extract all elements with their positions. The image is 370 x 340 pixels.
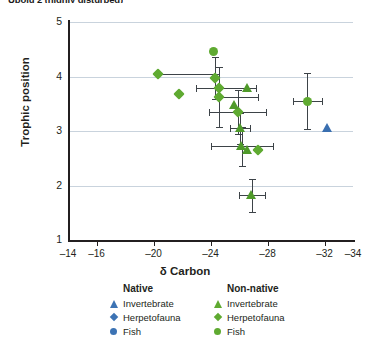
- legend-heading-native: Native: [123, 283, 220, 294]
- panel-title: Upolu 2 (highly disturbed): [8, 0, 123, 3]
- error-bar-cap: [293, 98, 294, 105]
- legend-item-label: Fish: [123, 326, 141, 337]
- x-tick--16: [97, 241, 98, 246]
- data-point-herpetofauna-nonnative: [152, 68, 163, 79]
- error-bar-cap: [273, 143, 274, 150]
- y-tick-label-3: 3: [46, 124, 62, 136]
- y-tick-label-2: 2: [46, 179, 62, 191]
- trophic-position-scatter-figure: Upolu 2 (highly disturbed) –14–16–20–24–…: [0, 0, 370, 340]
- legend-item-native-herpetofauna[interactable]: Herpetofauna: [110, 311, 220, 325]
- legend-item-native-fish[interactable]: Fish: [110, 325, 220, 339]
- legend-item-label: Invertebrate: [123, 298, 174, 309]
- circle-marker-icon: [214, 328, 221, 335]
- legend-item-label: Invertebrate: [227, 298, 278, 309]
- plot-area: [68, 22, 353, 240]
- triangle-marker-icon: [110, 300, 118, 308]
- error-bar-cap: [322, 98, 323, 105]
- data-point-invertebrate-nonnative: [235, 123, 245, 132]
- data-point-invertebrate-native: [322, 123, 332, 132]
- legend-item-nonnative-herpetofauna[interactable]: Herpetofauna: [214, 311, 324, 325]
- error-bar-cap: [258, 94, 259, 101]
- data-point-herpetofauna-nonnative: [173, 88, 184, 99]
- x-tick--28: [268, 241, 269, 246]
- y-tick-label-1: 1: [46, 233, 62, 245]
- error-bar-cap: [216, 127, 223, 128]
- error-bar-horizontal: [158, 74, 219, 75]
- gridline-y-3: [68, 131, 353, 132]
- error-bar-cap: [266, 109, 267, 116]
- data-point-invertebrate-nonnative: [246, 190, 256, 199]
- x-tick-label--24: –24: [196, 248, 226, 259]
- circle-marker-icon: [110, 328, 117, 335]
- error-bar-cap: [239, 192, 240, 199]
- error-bar-cap: [211, 143, 212, 150]
- y-axis-label: Trophic position: [19, 22, 31, 182]
- gridline-y-2: [68, 186, 353, 187]
- x-axis-line: [68, 240, 355, 242]
- legend-item-label: Herpetofauna: [123, 312, 181, 323]
- error-bar-cap: [216, 67, 223, 68]
- legend-column-native: Native InvertebrateHerpetofaunaFish: [110, 283, 220, 339]
- x-tick-label--28: –28: [253, 248, 283, 259]
- error-bar-cap: [196, 85, 197, 92]
- x-tick-label--34: –34: [338, 248, 368, 259]
- data-point-fish-nonnative: [209, 47, 218, 56]
- y-tick-label-4: 4: [46, 70, 62, 82]
- legend-item-label: Herpetofauna: [227, 312, 285, 323]
- legend-heading-nonnative: Non-native: [227, 283, 324, 294]
- error-bar-cap: [235, 90, 242, 91]
- error-bar-cap: [212, 57, 219, 58]
- x-tick-label--14: –14: [53, 248, 83, 259]
- error-bar-cap: [230, 125, 231, 132]
- x-tick--24: [211, 241, 212, 246]
- error-bar-cap: [239, 166, 246, 167]
- x-tick-label--20: –20: [139, 248, 169, 259]
- y-axis-line: [68, 20, 70, 242]
- x-tick--20: [154, 241, 155, 246]
- error-bar-cap: [249, 179, 256, 180]
- x-axis-label: δ Carbon: [0, 265, 370, 277]
- legend-item-native-invertebrate[interactable]: Invertebrate: [110, 297, 220, 311]
- y-tick-label-5: 5: [46, 15, 62, 27]
- x-tick-label--16: –16: [82, 248, 112, 259]
- gridline-y-5: [68, 22, 353, 23]
- error-bar-cap: [304, 129, 311, 130]
- error-bar-cap: [249, 212, 256, 213]
- data-point-invertebrate-nonnative: [242, 145, 252, 154]
- x-tick-label--32: –32: [310, 248, 340, 259]
- error-bar-cap: [304, 73, 311, 74]
- legend-item-nonnative-fish[interactable]: Fish: [214, 325, 324, 339]
- diamond-marker-icon: [110, 313, 118, 321]
- diamond-marker-icon: [214, 313, 222, 321]
- error-bar-cap: [209, 109, 210, 116]
- data-point-fish-nonnative: [303, 97, 312, 106]
- x-tick--32: [325, 241, 326, 246]
- legend-rows-nonnative: InvertebrateHerpetofaunaFish: [214, 297, 324, 339]
- error-bar-cap: [256, 85, 257, 92]
- legend-rows-native: InvertebrateHerpetofaunaFish: [110, 297, 220, 339]
- error-bar-cap: [265, 192, 266, 199]
- data-point-invertebrate-nonnative: [242, 83, 252, 92]
- legend-item-nonnative-invertebrate[interactable]: Invertebrate: [214, 297, 324, 311]
- data-point-invertebrate-nonnative: [229, 100, 239, 109]
- legend-column-nonnative: Non-native InvertebrateHerpetofaunaFish: [214, 283, 324, 339]
- legend-item-label: Fish: [227, 326, 245, 337]
- triangle-marker-icon: [214, 300, 222, 308]
- error-bar-cap: [250, 125, 251, 132]
